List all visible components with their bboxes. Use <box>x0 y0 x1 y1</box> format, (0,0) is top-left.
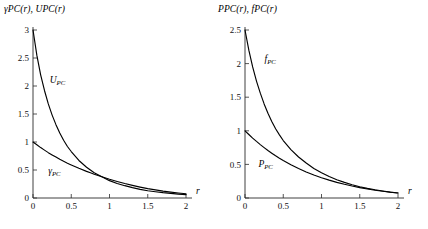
y-tick-label: 0.5 <box>18 165 30 175</box>
curve-label: γPC <box>48 166 61 177</box>
curve-gammaPC <box>33 142 186 194</box>
curve-label: PPC <box>257 159 273 170</box>
y-tick-label: 1 <box>237 126 242 136</box>
x-tick-label: 0.5 <box>66 201 78 211</box>
right-y-tick-group: 00.511.522.5 <box>230 25 249 203</box>
x-tick-label: 1.5 <box>354 201 366 211</box>
left-x-tick-group: 00.511.52 <box>31 194 189 211</box>
y-tick-label: 1.5 <box>230 92 242 102</box>
y-tick-label: 1 <box>25 137 30 147</box>
right-panel: PPC(r), fPC(r) 00.511.522.5 00.511.52 fP… <box>214 0 428 229</box>
y-tick-label: 2.5 <box>230 25 242 35</box>
left-panel: γPC(r), UPC(r) 00.511.522.53 00.511.52 U… <box>0 0 214 229</box>
x-tick-label: 0 <box>31 201 36 211</box>
y-tick-label: 0 <box>237 193 242 203</box>
y-tick-label: 2 <box>237 59 242 69</box>
figure-two-panel-plot: γPC(r), UPC(r) 00.511.522.53 00.511.52 U… <box>0 0 428 229</box>
x-tick-label: 2 <box>396 201 401 211</box>
y-tick-label: 3 <box>25 25 30 35</box>
x-tick-label: 1.5 <box>142 201 154 211</box>
x-tick-label: 0.5 <box>278 201 290 211</box>
left-y-tick-group: 00.511.522.53 <box>18 25 37 203</box>
right-axes-group <box>245 27 404 198</box>
right-panel-x-axis-label: r <box>408 186 412 196</box>
left-panel-plot-area: 00.511.522.53 00.511.52 UPCγPC r <box>0 0 214 229</box>
x-tick-label: 1 <box>319 201 324 211</box>
left-panel-x-axis-label: r <box>196 186 200 196</box>
y-tick-label: 2 <box>25 81 30 91</box>
x-tick-label: 0 <box>243 201 248 211</box>
right-x-tick-group: 00.511.52 <box>243 194 401 211</box>
right-panel-plot-area: 00.511.522.5 00.511.52 fPCPPC r <box>214 0 428 229</box>
y-tick-label: 2.5 <box>18 53 30 63</box>
x-tick-label: 2 <box>184 201 189 211</box>
curve-label: UPC <box>50 75 66 86</box>
x-tick-label: 1 <box>107 201 112 211</box>
y-tick-label: 1.5 <box>18 109 30 119</box>
y-tick-label: 0 <box>25 193 30 203</box>
curve-label: fPC <box>265 54 277 65</box>
y-tick-label: 0.5 <box>230 160 242 170</box>
